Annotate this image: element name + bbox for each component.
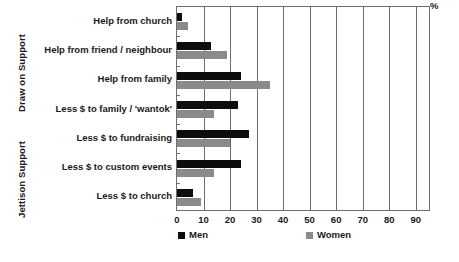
gridline-40: [283, 7, 284, 210]
chart-legend: Men Women: [176, 230, 456, 246]
bar-men-0: [177, 13, 182, 21]
category-label-1: Help from friend / neighbour: [24, 44, 172, 55]
x-tick-label-90: 90: [410, 214, 421, 225]
gridline-30: [257, 7, 258, 210]
bar-women-5: [177, 169, 214, 177]
bar-women-2: [177, 81, 270, 89]
x-tick-label-10: 10: [198, 214, 209, 225]
x-tick-label-80: 80: [384, 214, 395, 225]
category-tick-1: [177, 36, 180, 37]
bar-women-1: [177, 51, 227, 59]
bar-men-3: [177, 101, 238, 109]
gridline-60: [336, 7, 337, 210]
gridline-90: [416, 7, 417, 210]
category-tick-2: [177, 66, 180, 67]
category-label-5: Less $ to custom events: [24, 161, 172, 172]
legend-entry-men: Men: [178, 230, 208, 240]
x-tick-label-50: 50: [304, 214, 315, 225]
category-label-3: Less $ to family / 'wantok': [24, 103, 172, 114]
x-tick-label-40: 40: [278, 214, 289, 225]
legend-label-men: Men: [189, 230, 208, 240]
bar-women-6: [177, 198, 201, 206]
bar-women-3: [177, 110, 214, 118]
category-label-0: Help from church: [24, 15, 172, 26]
bar-chart: Draw on Support Jettison Support Help fr…: [0, 0, 459, 262]
legend-swatch-women-icon: [306, 232, 313, 239]
category-tick-6: [177, 183, 180, 184]
x-axis-unit-label: %: [430, 0, 438, 11]
category-label-column: Help from churchHelp from friend / neigh…: [24, 6, 172, 211]
x-tick-label-20: 20: [225, 214, 236, 225]
x-tick-label-60: 60: [331, 214, 342, 225]
plot-area: [176, 6, 430, 211]
category-label-4: Less $ to fundraising: [24, 132, 172, 143]
x-axis-tick-labels: 0102030405060708090: [176, 214, 456, 228]
category-tick-5: [177, 153, 180, 154]
category-label-6: Less $ to church: [24, 190, 172, 201]
category-tick-4: [177, 124, 180, 125]
bar-men-1: [177, 42, 211, 50]
gridline-70: [363, 7, 364, 210]
bar-men-6: [177, 189, 193, 197]
x-tick-label-70: 70: [357, 214, 368, 225]
bar-men-5: [177, 160, 241, 168]
category-label-2: Help from family: [24, 73, 172, 84]
legend-entry-women: Women: [306, 230, 351, 240]
bar-women-4: [177, 139, 230, 147]
bar-men-4: [177, 130, 249, 138]
legend-swatch-men-icon: [178, 232, 185, 239]
bar-women-0: [177, 22, 188, 30]
gridline-50: [310, 7, 311, 210]
x-tick-label-0: 0: [174, 214, 179, 225]
category-tick-3: [177, 95, 180, 96]
legend-label-women: Women: [317, 230, 351, 240]
x-tick-label-30: 30: [251, 214, 262, 225]
gridline-80: [389, 7, 390, 210]
bar-men-2: [177, 72, 241, 80]
